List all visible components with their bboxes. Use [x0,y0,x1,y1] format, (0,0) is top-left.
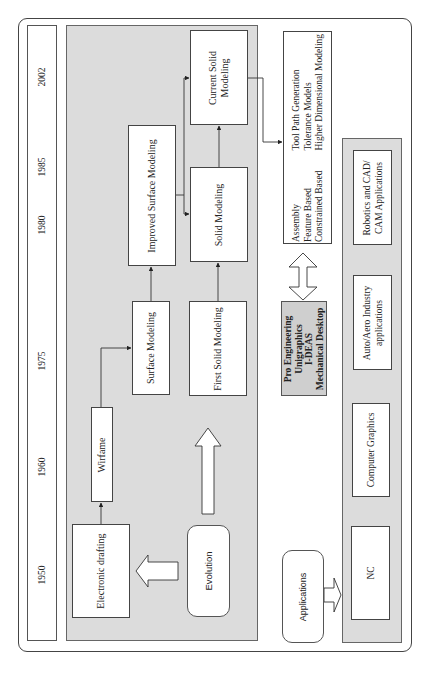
application-label-line: applications [373,285,385,360]
application-label-line: CAM Applications [373,160,385,235]
application-label-line: Robotics and CAD/ [361,160,373,235]
software-item: Pro Engineering [283,307,294,390]
capabilities-box: Assembly Feature Based Constrained Based… [283,31,332,244]
application-label: Auto/Aero Industry applications [361,285,385,360]
capability-item: Tolerance Models [302,33,314,150]
application-robotics: Robotics and CAD/ CAM Applications [353,150,392,245]
capability-item: Constrained Based [313,170,325,242]
software-box: Pro Engineering Unigraphics I-DEAS Mecha… [281,301,327,396]
software-item: Mechanical Desktop [315,307,326,390]
application-label: NC [365,566,377,579]
evolution-up-arrow [195,428,221,514]
capabilities-col-2: Tool Path Generation Tolerance Models Hi… [290,33,325,150]
application-nc: NC [351,526,390,620]
software-item: I-DEAS [304,307,315,390]
application-label: Robotics and CAD/ CAM Applications [361,160,385,235]
capability-item: Higher Dimensional Modeling [313,33,325,150]
applications-label: Applications [297,572,309,621]
applications-label-box: Applications [282,550,324,643]
capability-item: Feature Based [302,170,314,242]
capabilities-col-1: Assembly Feature Based Constrained Based [290,170,325,242]
application-auto-aero: Auto/Aero Industry applications [353,275,392,370]
software-list: Pro Engineering Unigraphics I-DEAS Mecha… [283,307,325,390]
application-label-line: Auto/Aero Industry [361,285,373,360]
capability-item: Assembly [290,170,302,242]
application-label: Computer Graphics [365,413,377,488]
double-arrow [289,253,317,300]
applications-arrow [324,578,341,612]
capabilities-text: Assembly Feature Based Constrained Based… [290,33,325,241]
software-item: Unigraphics [294,307,305,390]
application-computer-graphics: Computer Graphics [352,403,390,497]
capability-item: Tool Path Generation [290,33,302,150]
evolution-left-arrow [136,555,178,587]
